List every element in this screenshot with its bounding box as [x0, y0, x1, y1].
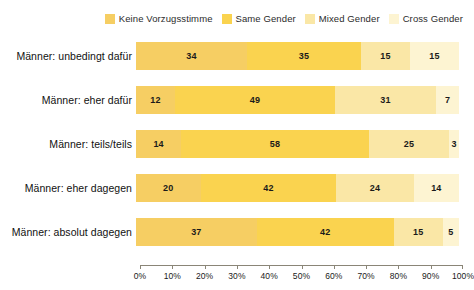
chart-row: Männer: unbedingt dafür34351515	[0, 42, 474, 70]
x-axis-tick	[172, 265, 173, 269]
x-axis-tick	[398, 265, 399, 269]
x-axis-tick-label: 40%	[261, 271, 278, 281]
x-axis-tick	[140, 265, 141, 269]
legend-item-label: Mixed Gender	[319, 14, 380, 24]
stacked-bar: 20422414	[136, 174, 459, 202]
bar-segment-value: 3	[452, 139, 457, 149]
bar-segment-value: 24	[370, 183, 380, 193]
x-axis-tick-label: 90%	[422, 271, 439, 281]
bar-segment-value: 37	[191, 227, 201, 237]
x-axis-tick-label: 10%	[164, 271, 181, 281]
bar-segment-value: 42	[263, 183, 273, 193]
legend-item-label: Same Gender	[236, 14, 296, 24]
stacked-bar-chart: Keine VorzugsstimmeSame GenderMixed Gend…	[0, 0, 474, 290]
bar-segment[interactable]: 3	[449, 130, 459, 158]
chart-row: Männer: eher dagegen20422414	[0, 174, 474, 202]
category-label: Männer: teils/teils	[0, 138, 136, 150]
bar-segment-value: 34	[186, 51, 196, 61]
category-label: Männer: unbedingt dafür	[0, 50, 136, 62]
chart-row: Männer: absolut dagegen3742155	[0, 218, 474, 246]
bar-segment[interactable]: 37	[136, 218, 257, 246]
legend-item[interactable]: Cross Gender	[389, 14, 463, 24]
x-axis-tick	[366, 265, 367, 269]
x-axis-tick-label: 70%	[357, 271, 374, 281]
bar-segment[interactable]: 25	[369, 130, 450, 158]
bar-segment[interactable]: 15	[410, 42, 459, 70]
x-axis-tick-label: 80%	[390, 271, 407, 281]
category-label: Männer: eher dagegen	[0, 182, 136, 194]
x-axis-tick-label: 60%	[325, 271, 342, 281]
bar-segment-value: 35	[299, 51, 309, 61]
bar-segment[interactable]: 58	[181, 130, 368, 158]
legend-item[interactable]: Same Gender	[222, 14, 296, 24]
legend-swatch-icon	[389, 14, 399, 24]
chart-row: Männer: eher dafür1249317	[0, 86, 474, 114]
stacked-bar: 34351515	[136, 42, 459, 70]
x-axis: 0%10%20%30%40%50%60%70%80%90%100%	[140, 265, 463, 287]
bar-segment[interactable]: 24	[336, 174, 414, 202]
bar-segment-value: 15	[380, 51, 390, 61]
legend-item-label: Cross Gender	[403, 14, 463, 24]
bar-segment-value: 14	[153, 139, 163, 149]
x-axis-tick-label: 100%	[452, 271, 474, 281]
legend-swatch-icon	[222, 14, 232, 24]
bar-segment[interactable]: 42	[257, 218, 394, 246]
bar-segment-value: 15	[413, 227, 423, 237]
bar-segment-value: 31	[380, 95, 390, 105]
bar-segment[interactable]: 14	[136, 130, 181, 158]
stacked-bar: 1249317	[136, 86, 459, 114]
category-label: Männer: absolut dagegen	[0, 226, 136, 238]
bar-segment[interactable]: 12	[136, 86, 175, 114]
x-axis-tick	[431, 265, 432, 269]
bar-segment-value: 49	[250, 95, 260, 105]
stacked-bar: 3742155	[136, 218, 459, 246]
bar-segment-value: 42	[320, 227, 330, 237]
bar-segment-value: 14	[431, 183, 441, 193]
legend-item-label: Keine Vorzugsstimme	[119, 14, 213, 24]
bar-segment-value: 5	[448, 227, 453, 237]
x-axis-tick	[205, 265, 206, 269]
x-axis-tick	[302, 265, 303, 269]
legend-swatch-icon	[105, 14, 115, 24]
x-axis-tick-label: 20%	[196, 271, 213, 281]
bar-segment-value: 25	[404, 139, 414, 149]
bar-segment[interactable]: 7	[436, 86, 459, 114]
x-axis-tick	[334, 265, 335, 269]
chart-row: Männer: teils/teils1458253	[0, 130, 474, 158]
bar-segment[interactable]: 20	[136, 174, 201, 202]
bar-segment[interactable]: 5	[443, 218, 459, 246]
bar-segment-value: 12	[150, 95, 160, 105]
bar-segment-value: 20	[163, 183, 173, 193]
bar-segment[interactable]: 31	[335, 86, 436, 114]
plot-area: Männer: unbedingt dafür34351515Männer: e…	[0, 31, 474, 259]
bar-segment[interactable]: 35	[247, 42, 361, 70]
legend-swatch-icon	[305, 14, 315, 24]
chart-legend: Keine VorzugsstimmeSame GenderMixed Gend…	[0, 11, 474, 27]
category-label: Männer: eher dafür	[0, 94, 136, 106]
bar-segment-value: 58	[270, 139, 280, 149]
x-axis-tick	[462, 265, 463, 269]
x-axis-tick-label: 30%	[228, 271, 245, 281]
x-axis-tick	[269, 265, 270, 269]
bar-segment[interactable]: 15	[361, 42, 410, 70]
legend-item[interactable]: Keine Vorzugsstimme	[105, 14, 213, 24]
stacked-bar: 1458253	[136, 130, 459, 158]
bar-segment[interactable]: 34	[136, 42, 247, 70]
legend-item[interactable]: Mixed Gender	[305, 14, 380, 24]
bar-segment[interactable]: 42	[201, 174, 337, 202]
x-axis-tick-label: 0%	[134, 271, 147, 281]
bar-segment-value: 7	[445, 95, 450, 105]
bar-segment[interactable]: 14	[414, 174, 459, 202]
x-axis-tick-label: 50%	[293, 271, 310, 281]
bar-segment[interactable]: 15	[394, 218, 443, 246]
x-axis-tick	[237, 265, 238, 269]
bar-segment-value: 15	[429, 51, 439, 61]
bar-segment[interactable]: 49	[175, 86, 335, 114]
